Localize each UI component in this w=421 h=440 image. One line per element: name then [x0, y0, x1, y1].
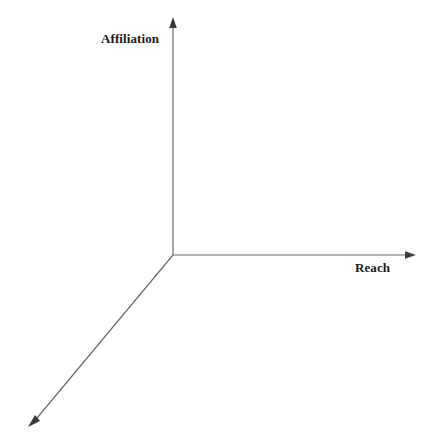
- reach-axis: [173, 251, 416, 259]
- arrow-right-icon: [405, 251, 416, 259]
- reach-axis-label: Reach: [355, 260, 390, 276]
- affiliation-axis: [169, 17, 177, 255]
- depth-axis-line: [37, 255, 173, 418]
- axes-svg: [0, 0, 421, 440]
- diagram-canvas: Affiliation Reach: [0, 0, 421, 440]
- arrow-up-icon: [169, 17, 177, 28]
- affiliation-axis-label: Affiliation: [101, 31, 159, 47]
- depth-axis: [28, 255, 173, 427]
